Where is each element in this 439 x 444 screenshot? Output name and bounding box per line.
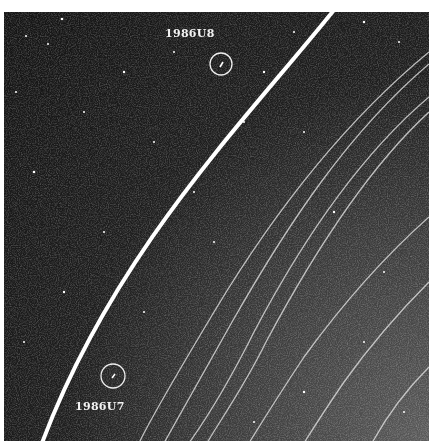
label-1986u8: 1986U8 — [165, 27, 215, 40]
moon-u7-streak — [112, 374, 115, 378]
ring-photograph — [4, 12, 429, 441]
rings-layer — [4, 12, 429, 441]
moon-u8-streak — [220, 62, 223, 67]
label-1986u7: 1986U7 — [75, 400, 125, 413]
